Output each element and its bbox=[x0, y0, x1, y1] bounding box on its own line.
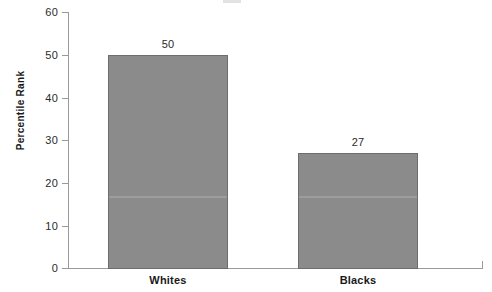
y-axis-tick-label-50: 50 bbox=[22, 50, 58, 61]
x-axis-category-label-whites: Whites bbox=[108, 274, 228, 287]
x-axis-category-label-blacks: Blacks bbox=[298, 274, 418, 287]
y-axis-tick-label-20: 20 bbox=[22, 178, 58, 189]
y-axis-tick-60 bbox=[62, 12, 68, 13]
y-axis-tick-label-10: 10 bbox=[22, 221, 58, 232]
y-axis-tick-20 bbox=[62, 183, 68, 184]
y-axis-tick-label-0: 0 bbox=[22, 263, 58, 274]
scan-line-artifact bbox=[109, 196, 227, 198]
y-axis-tick-label-30: 30 bbox=[22, 135, 58, 146]
x-axis-end-tick bbox=[482, 261, 483, 269]
bar-chart-figure: Percentile Rank 60 50 40 30 20 10 0 bbox=[0, 0, 492, 292]
bar-value-label-whites: 50 bbox=[138, 38, 198, 50]
plot-area: Percentile Rank 60 50 40 30 20 10 0 bbox=[0, 0, 492, 292]
y-axis-line bbox=[68, 12, 69, 269]
y-axis-tick-50 bbox=[62, 55, 68, 56]
bar-value-label-blacks: 27 bbox=[328, 136, 388, 148]
y-axis-tick-label-60: 60 bbox=[22, 7, 58, 18]
y-axis-tick-label-40: 40 bbox=[22, 93, 58, 104]
scan-line-artifact bbox=[299, 196, 417, 198]
bar-whites bbox=[108, 55, 228, 269]
y-axis-tick-40 bbox=[62, 98, 68, 99]
y-axis-tick-30 bbox=[62, 140, 68, 141]
bar-blacks bbox=[298, 153, 418, 269]
y-axis-tick-10 bbox=[62, 226, 68, 227]
